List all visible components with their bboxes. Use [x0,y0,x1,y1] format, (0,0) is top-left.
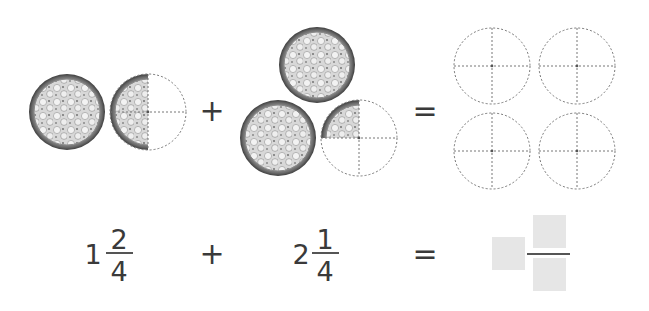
answer-denominator-box[interactable] [533,258,566,291]
answer-numerator-box[interactable] [533,215,566,248]
fraction-bar [106,252,133,254]
plus-sign-bottom: + [197,239,227,269]
denominator: 4 [314,258,336,285]
fraction-bar [312,252,339,254]
empty-circle[interactable] [454,28,530,104]
empty-circle[interactable] [539,113,615,189]
numerator: 2 [108,226,130,253]
plus-sign-top: + [197,96,227,126]
quarter-pizza [321,100,397,176]
whole-part: 2 [292,241,310,268]
denominator: 4 [108,258,130,285]
equals-sign-bottom: = [410,239,440,269]
whole-part: 1 [84,241,102,268]
half-pizza [110,74,186,150]
whole-pizza [240,100,316,176]
empty-circle[interactable] [539,28,615,104]
whole-pizza [279,27,355,103]
whole-pizza [29,74,105,150]
empty-circle[interactable] [454,113,530,189]
answer-whole-box[interactable] [492,237,525,270]
numerator: 1 [314,226,336,253]
equals-sign-top: = [410,96,440,126]
answer-fraction-bar [527,253,570,255]
